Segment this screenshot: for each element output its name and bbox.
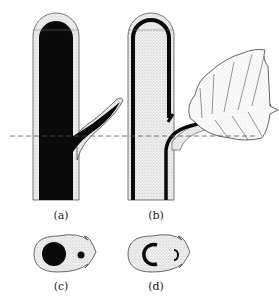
leaf-blade [189,49,278,140]
panel-d-cross-section [128,235,190,272]
panel-a-stem [33,13,123,200]
botanical-diagram [0,0,279,308]
panel-b-stem [128,13,278,200]
panel-d-label: (d) [141,280,171,293]
panel-b-label: (b) [141,209,171,222]
panel-c-cross-section [34,235,96,272]
panel-c-label: (c) [46,280,76,293]
panel-a-label: (a) [46,209,76,222]
